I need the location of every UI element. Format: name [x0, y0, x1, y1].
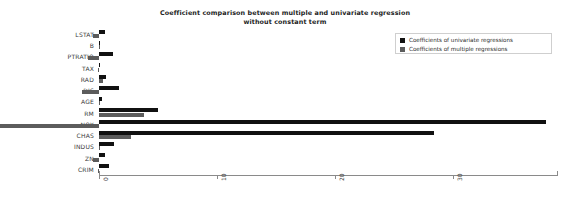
bar-nox-multiple: [0, 124, 99, 128]
bar-age-multiple: [99, 101, 100, 105]
bar-tax-univariate: [99, 63, 100, 67]
y-tick-label-ptratio: PTRATIO: [24, 53, 94, 60]
x-axis-line: [99, 175, 558, 176]
bar-rad-multiple: [99, 79, 103, 83]
bar-crim-univariate: [99, 164, 109, 168]
x-tick-label-20: 20: [338, 173, 345, 181]
x-tick-0: [99, 175, 100, 179]
plot-area: [99, 29, 547, 175]
chart-title-line-1: Coefficient comparison between multiple …: [160, 9, 410, 17]
y-tick-label-lstat: LSTAT: [24, 31, 94, 38]
y-tick-label-tax: TAX: [24, 65, 94, 72]
bar-lstat-univariate: [99, 30, 105, 34]
x-tick-label-0: 0: [102, 177, 109, 181]
bar-ptratio-multiple: [88, 56, 99, 60]
bar-tax-multiple: [98, 68, 99, 72]
x-axis-right-cap: [557, 171, 558, 176]
bar-rm-multiple: [99, 113, 144, 117]
bar-chas-multiple: [99, 135, 131, 139]
chart-title: Coefficient comparison between multiple …: [0, 9, 570, 27]
bar-b-multiple: [99, 45, 100, 49]
bar-chas-univariate: [99, 131, 434, 135]
y-tick-label-b: B: [24, 42, 94, 49]
chart-title-line-2: without constant term: [0, 18, 570, 27]
x-tick-30: [453, 175, 454, 179]
x-tick-20: [335, 175, 336, 179]
bar-dis-multiple: [82, 90, 99, 94]
y-tick-label-zn: ZN: [24, 155, 94, 162]
x-tick-label-10: 10: [220, 173, 227, 181]
x-tick-label-30: 30: [456, 173, 463, 181]
y-tick-label-rad: RAD: [24, 76, 94, 83]
bar-zn-univariate: [99, 153, 105, 157]
bar-zn-multiple: [93, 158, 99, 162]
y-tick-label-age: AGE: [24, 98, 94, 105]
bar-dis-univariate: [99, 86, 119, 90]
bar-lstat-multiple: [93, 34, 99, 38]
y-tick-label-indus: INDUS: [24, 143, 94, 150]
y-tick-label-crim: CRIM: [24, 166, 94, 173]
bar-indus-multiple: [99, 146, 100, 150]
x-tick-10: [217, 175, 218, 179]
y-tick-label-rm: RM: [24, 110, 94, 117]
bar-ptratio-univariate: [99, 52, 113, 56]
y-tick-label-chas: CHAS: [24, 132, 94, 139]
bar-indus-univariate: [99, 142, 114, 146]
chart-figure: Coefficient comparison between multiple …: [0, 0, 570, 208]
bar-nox-univariate: [99, 120, 546, 124]
y-axis-tick-labels: LSTATBPTRATIOTAXRADDISAGERMNOXCHASINDUSZ…: [22, 29, 94, 175]
